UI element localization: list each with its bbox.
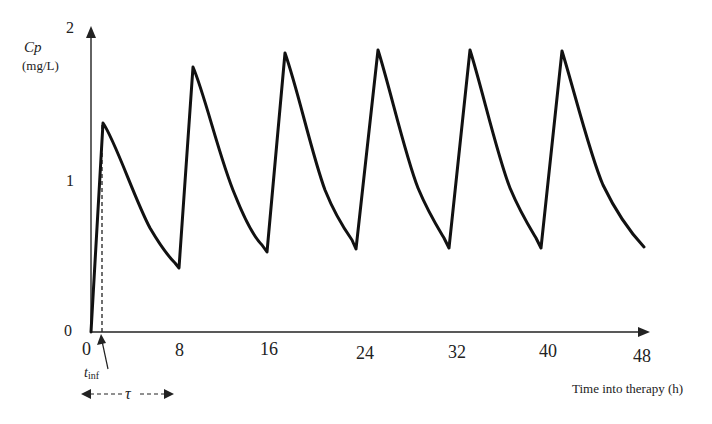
y-tick-2: 2 [66, 19, 74, 36]
x-tick-32: 32 [448, 342, 466, 362]
y-axis-arrow-icon [86, 26, 96, 38]
y-tick-1: 1 [66, 172, 74, 189]
y-axis-units: (mg/L) [22, 58, 59, 73]
x-axis-title: Time into therapy (h) [572, 381, 683, 396]
tau-right-arrow-icon [164, 389, 174, 399]
y-axis-title: Cp [24, 39, 42, 55]
x-tick-16: 16 [260, 339, 278, 359]
pk-chart: 2 1 0 Cp (mg/L) 0 8 16 24 32 40 48 Time … [0, 0, 712, 424]
concentration-curve [91, 50, 644, 332]
x-tick-24: 24 [356, 343, 374, 363]
tau-left-arrow-icon [81, 389, 91, 399]
x-tick-40: 40 [539, 341, 557, 361]
y-tick-0: 0 [64, 322, 72, 339]
tinf-arrow-icon [97, 334, 106, 345]
x-tick-8: 8 [175, 340, 184, 360]
tinf-pointer [102, 341, 108, 369]
x-tick-0: 0 [82, 339, 91, 359]
tau-label: τ [125, 385, 132, 402]
x-axis-arrow-icon [638, 327, 650, 337]
tinf-label: tinf [84, 365, 100, 381]
x-tick-48: 48 [633, 346, 651, 366]
